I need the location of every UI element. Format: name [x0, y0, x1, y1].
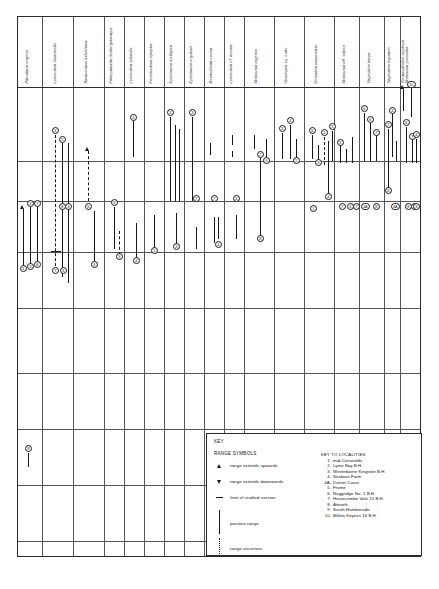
taxon-label: Lenticulina tricarinella — [53, 18, 58, 84]
locality-name: Horsecombe Vale 15 B.H. — [333, 496, 384, 501]
locality-name: Milton Keynes 16 B.H. — [333, 513, 377, 518]
triangle-up-icon — [400, 85, 404, 89]
locality-marker: 7 — [339, 203, 346, 210]
locality-marker: 7 — [373, 129, 380, 136]
locality-marker: 3 — [279, 125, 286, 132]
taxon-header-2: Saracenaria oxfordiana — [73, 17, 104, 87]
range-bar — [376, 135, 377, 161]
taxon-label: Planularia eugenii — [25, 18, 30, 84]
column-divider — [124, 17, 125, 556]
locality-marker: 4A — [361, 203, 370, 210]
range-bar — [260, 157, 261, 237]
range-bar — [192, 117, 193, 201]
taxon-label: Reinholdella crebra — [209, 18, 214, 84]
locality-name: Dorset Coast — [333, 480, 359, 485]
locality-marker: 10 — [407, 81, 416, 88]
locality-marker: 4 — [287, 117, 294, 124]
zone-boundary — [18, 201, 420, 202]
taxon-label: Lenticulina cf. lineata — [229, 18, 234, 84]
range-bar — [37, 207, 38, 263]
locality-marker: 8 — [257, 235, 264, 242]
range-symbols-heading: RANGE SYMBOLS — [214, 451, 256, 456]
locality-marker: 5 — [293, 157, 300, 164]
range-bar — [154, 215, 155, 249]
range-bar — [364, 113, 365, 161]
range-bar — [254, 135, 255, 149]
taxon-header-10: Nodosaria argenta — [244, 17, 274, 87]
locality-marker: 8 — [373, 203, 380, 210]
range-bar — [196, 227, 197, 249]
taxon-header-15: Vaginulina legumen — [384, 17, 400, 87]
range-bar — [392, 113, 393, 157]
locality-name: mid-Cotswolds — [333, 458, 362, 463]
legend-title: KEY — [214, 439, 224, 444]
locality-marker: 9 — [111, 199, 118, 206]
column-divider — [42, 17, 43, 556]
section-limit-marker — [51, 251, 61, 252]
range-chart: Planularia eugenii Lenticulina tricarine… — [0, 0, 439, 589]
locality-marker: 4 — [27, 200, 34, 207]
locality-marker: 6 — [385, 187, 392, 194]
range-bar — [388, 129, 389, 189]
taxon-label: Nodosaria pectinata — [405, 18, 410, 84]
locality-marker: 1 — [151, 247, 158, 254]
locality-marker: 6 — [85, 203, 92, 210]
taxon-label: Lenticulina volubilis — [129, 18, 134, 84]
taxon-label: Dentalina mucronata — [314, 18, 319, 84]
range-bar — [312, 135, 313, 159]
locality-marker: 5 — [337, 139, 344, 146]
locality-name: Naggridge No. 1 B.H. — [333, 491, 375, 496]
locality-marker: 4A — [391, 203, 400, 210]
locality-marker: 1 — [20, 265, 27, 272]
range-bar — [214, 217, 215, 243]
zone-boundary — [18, 161, 420, 162]
locality-marker: 7 — [385, 121, 392, 128]
legend-label: range extends upwards — [230, 463, 278, 468]
locality-marker: 9 — [315, 159, 322, 166]
locality-marker: 6 — [263, 157, 270, 164]
locality-marker: 4 — [389, 107, 396, 114]
taxon-header-13: Nodosaria aff. salteri — [334, 17, 359, 87]
taxon-header-6: Epistomina stelligera — [164, 17, 184, 87]
range-bar — [218, 217, 219, 239]
taxon-label: Nodosaria aff. salteri — [342, 18, 347, 84]
taxon-header-1: Lenticulina tricarinella — [42, 17, 73, 87]
triangle-down-icon — [217, 480, 221, 484]
locality-marker: 4 — [215, 241, 222, 248]
column-divider — [73, 17, 74, 556]
legend-box: KEY RANGE SYMBOLS range extends upwards … — [206, 433, 422, 556]
taxon-header-12: Dentalina mucronata — [304, 17, 334, 87]
range-bar — [30, 207, 31, 265]
range-bar — [232, 151, 233, 157]
locality-name: Lyme Bay B.H. — [333, 463, 362, 468]
range-bar — [412, 139, 413, 163]
locality-marker: 5 — [59, 136, 66, 143]
range-bar-uncertain — [324, 137, 325, 165]
locality-marker: 3 — [65, 203, 72, 210]
locality-marker: 4 — [130, 114, 137, 121]
range-bar — [332, 131, 333, 161]
taxon-header-9: Lenticulina cf. lineata — [224, 17, 244, 87]
locality-marker: 4 — [325, 193, 332, 200]
locality-marker: 9 — [25, 445, 32, 452]
dotted-bar-icon — [219, 538, 220, 556]
locality-marker: 6 — [361, 105, 368, 112]
locality-marker: 6 — [367, 116, 374, 123]
range-bar — [210, 143, 211, 155]
range-bar — [416, 139, 417, 163]
taxon-header-7: Epistomina regularis — [184, 17, 204, 87]
taxon-header-4: Lenticulina volubilis — [124, 17, 144, 87]
taxon-label: Saracenaria oxfordiana — [84, 18, 89, 84]
range-bar — [352, 137, 353, 163]
legend-label: range uncertain — [230, 546, 262, 551]
localities-key: KEY TO LOCALITIES 1.mid-Cotswolds 2.Lyme… — [321, 452, 386, 519]
legend-label: positive range — [230, 521, 259, 526]
range-bar — [406, 127, 407, 163]
locality-marker: 6 — [403, 119, 410, 126]
locality-name: Atworth — [333, 502, 348, 507]
range-bar — [176, 213, 177, 245]
locality-marker: 6 — [60, 267, 67, 274]
range-bar-uncertain — [119, 231, 120, 255]
locality-number: 10. — [321, 513, 331, 519]
locality-marker: 3 — [116, 253, 123, 260]
